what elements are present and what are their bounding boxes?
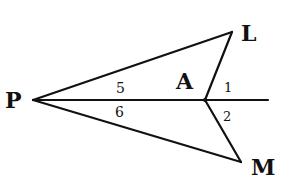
segment-PL (33, 32, 232, 100)
point-label-L: L (241, 20, 256, 46)
point-label-P: P (5, 87, 22, 113)
angle-label-1: 1 (224, 80, 232, 95)
point-label-A: A (175, 68, 194, 94)
geometry-figure: P L A M 5 6 1 2 (0, 0, 294, 188)
angle-label-5: 5 (116, 80, 125, 96)
angle-label-6: 6 (115, 104, 124, 120)
point-A-dot (203, 98, 207, 102)
angle-label-2: 2 (223, 109, 231, 124)
point-label-M: M (251, 154, 275, 180)
